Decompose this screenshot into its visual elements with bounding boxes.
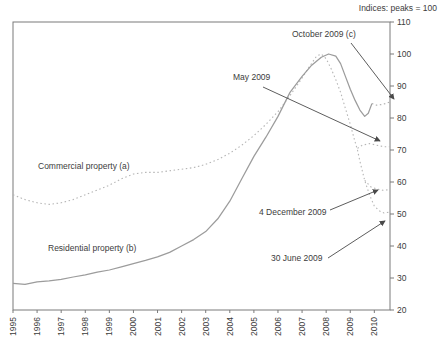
series-label-residential-property: Residential property (b) xyxy=(48,243,137,253)
x-axis-year-label: 1997 xyxy=(56,317,66,336)
x-axis-year-label: 2000 xyxy=(128,317,138,336)
annotation-30-june-2009-label: 30 June 2009 xyxy=(271,253,323,263)
x-axis-year-label: 1999 xyxy=(104,317,114,336)
x-axis-year-label: 2006 xyxy=(273,317,283,336)
x-axis-year-label: 1995 xyxy=(8,317,18,336)
annotation-october-2009-label: October 2009 (c) xyxy=(292,29,356,39)
y-axis-tick-label: 90 xyxy=(397,81,407,91)
chart-panel: 1101009080706050403020199519961997199819… xyxy=(0,0,439,353)
x-axis-year-label: 2008 xyxy=(321,317,331,336)
series-residential-latest-dotted-tail-line xyxy=(372,102,390,105)
y-axis-tick-label: 40 xyxy=(397,241,407,251)
x-axis-year-label: 2007 xyxy=(297,317,307,336)
axis-units-note: Indices: peaks = 100 xyxy=(359,3,437,13)
y-axis-tick-label: 20 xyxy=(397,305,407,315)
annotation-arrow-3 xyxy=(328,221,385,258)
annotation-arrow-0 xyxy=(351,43,394,99)
x-axis-year-label: 2005 xyxy=(249,317,259,336)
y-axis-tick-label: 60 xyxy=(397,177,407,187)
y-axis-tick-label: 100 xyxy=(397,49,411,59)
y-axis-tick-label: 80 xyxy=(397,113,407,123)
annotation-arrow-2 xyxy=(330,190,378,210)
x-axis-year-label: 2003 xyxy=(201,317,211,336)
y-axis-tick-label: 50 xyxy=(397,209,407,219)
series-commercial-property-line xyxy=(13,54,390,213)
y-axis-tick-label: 110 xyxy=(397,17,411,27)
y-axis-tick-label: 30 xyxy=(397,273,407,283)
x-axis-year-label: 1998 xyxy=(80,317,90,336)
series-commercial-may-2009-branch-line xyxy=(358,144,391,149)
property-price-index-chart: 1101009080706050403020199519961997199819… xyxy=(0,0,439,353)
series-commercial-4-december-2009-branch-line xyxy=(365,180,390,190)
series-label-commercial-property: Commercial property (a) xyxy=(38,161,130,171)
annotation-may-2009-label: May 2009 xyxy=(233,72,271,82)
x-axis-year-label: 2004 xyxy=(225,317,235,336)
x-axis-year-label: 2001 xyxy=(153,317,163,336)
x-axis-year-label: 2002 xyxy=(177,317,187,336)
annotation-4-december-2009-label: 4 December 2009 xyxy=(259,207,327,217)
x-axis-year-label: 1996 xyxy=(32,317,42,336)
x-axis-year-label: 2009 xyxy=(345,317,355,336)
x-axis-year-label: 2010 xyxy=(369,317,379,336)
y-axis-tick-label: 70 xyxy=(397,145,407,155)
